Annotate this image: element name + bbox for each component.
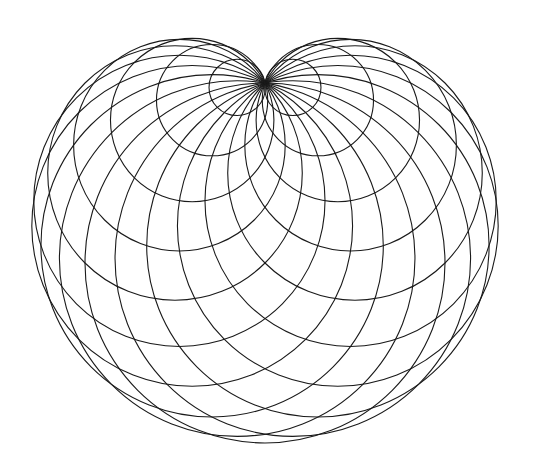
- cardioid-diagram: [0, 0, 537, 475]
- circle-family: [32, 38, 498, 443]
